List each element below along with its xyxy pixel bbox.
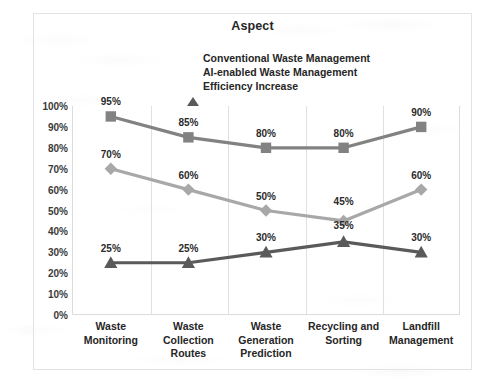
data-point-label: 30% — [411, 232, 431, 243]
plot-wrapper: 100%90%80%70%60%50%40%30%20%10%0% WasteM… — [34, 14, 471, 369]
y-axis-tick-label: 30% — [34, 247, 68, 258]
data-point-label: 85% — [178, 117, 198, 128]
x-axis-category-label: LandfillManagement — [375, 320, 467, 347]
y-axis-tick-label: 90% — [34, 121, 68, 132]
data-point-marker[interactable] — [106, 111, 116, 121]
data-point-marker[interactable] — [338, 143, 348, 153]
data-point-marker[interactable] — [415, 183, 427, 195]
y-axis-tick-label: 70% — [34, 163, 68, 174]
data-point-marker[interactable] — [182, 183, 194, 195]
y-axis-tick-label: 10% — [34, 289, 68, 300]
data-point-label: 25% — [178, 243, 198, 254]
y-axis: 100%90%80%70%60%50%40%30%20%10%0% — [34, 14, 68, 369]
data-point-marker[interactable] — [183, 132, 193, 142]
x-axis-label-line: Management — [375, 334, 467, 348]
y-axis-tick-label: 50% — [34, 205, 68, 216]
data-point-marker[interactable] — [260, 204, 272, 216]
data-point-label: 80% — [256, 128, 276, 139]
y-axis-tick-label: 60% — [34, 184, 68, 195]
y-axis-tick-label: 20% — [34, 268, 68, 279]
x-axis-label-line: Landfill — [375, 320, 467, 334]
y-axis-tick-label: 40% — [34, 226, 68, 237]
chart-container: Aspect Conventional Waste Management AI-… — [33, 13, 472, 370]
y-axis-tick-label: 100% — [34, 101, 68, 112]
data-point-label: 50% — [256, 191, 276, 202]
data-point-label: 30% — [256, 232, 276, 243]
data-point-label: 45% — [334, 196, 354, 207]
data-point-marker[interactable] — [261, 143, 271, 153]
y-axis-tick-label: 80% — [34, 142, 68, 153]
y-axis-tick-label: 0% — [34, 310, 68, 321]
x-axis-label-line: Prediction — [220, 347, 312, 361]
data-point-marker[interactable] — [105, 163, 117, 175]
x-axis: WasteMonitoringWasteCollectionRoutesWast… — [72, 320, 460, 368]
data-point-label: 35% — [334, 220, 354, 231]
data-point-label: 90% — [411, 107, 431, 118]
data-point-label: 80% — [334, 128, 354, 139]
data-point-label: 25% — [101, 243, 121, 254]
data-point-marker[interactable] — [416, 122, 426, 132]
data-point-label: 95% — [101, 96, 121, 107]
data-point-label: 60% — [178, 170, 198, 181]
data-point-label: 60% — [411, 170, 431, 181]
data-point-label: 70% — [101, 149, 121, 160]
